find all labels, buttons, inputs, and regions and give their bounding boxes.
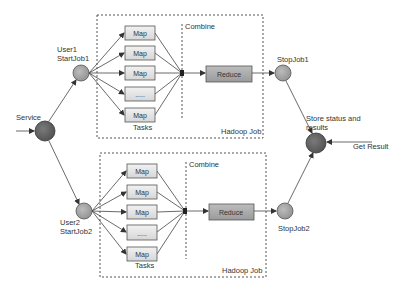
job-2-tasks-label: Tasks — [135, 261, 154, 270]
hadoop-job-2: Combine Hadoop Job Tasks Map Map Map ...… — [92, 153, 276, 277]
stopjob1-label: StopJob1 — [277, 55, 309, 64]
svg-text:.....: ..... — [135, 91, 145, 98]
job-1-map-tasks: Map Map Map ..... Map — [125, 26, 155, 122]
user1-label: User1 — [57, 45, 77, 54]
job-1-reduce-label: Reduce — [217, 71, 241, 78]
svg-text:Map: Map — [135, 168, 149, 176]
store-results-label: results — [306, 123, 328, 132]
job-1-combine-label: Combine — [185, 22, 215, 31]
svg-text:Map: Map — [133, 50, 147, 58]
svg-text:Map: Map — [133, 112, 147, 120]
stopjob2-node — [277, 203, 293, 219]
job-1-title: Hadoop Job — [221, 127, 261, 136]
store-status-label: Store status and — [306, 114, 361, 123]
svg-text:Map: Map — [135, 189, 149, 197]
startjob2-label: StartJob2 — [60, 227, 92, 236]
service-node — [35, 121, 55, 141]
job-2-combine-junction — [183, 208, 187, 214]
hadoop-job-diagram: Combine Hadoop Job Tasks Map Map Map ...… — [0, 0, 400, 291]
service-label: Service — [16, 113, 41, 122]
user1-startjob1-node — [73, 65, 89, 81]
job-2-map-tasks: Map Map Map ..... Map — [127, 164, 157, 261]
job-2-title: Hadoop Job — [222, 266, 262, 275]
svg-text:Map: Map — [135, 251, 149, 259]
stopjob2-label: StopJob2 — [278, 224, 310, 233]
stopjob1-node — [275, 65, 291, 81]
store-results-node — [306, 133, 326, 153]
svg-text:Map: Map — [135, 209, 149, 217]
job-1-tasks-label: Tasks — [133, 123, 152, 132]
startjob1-label: StartJob1 — [57, 54, 89, 63]
job-1-combine-junction — [180, 70, 184, 76]
hadoop-job-1: Combine Hadoop Job Tasks Map Map Map ...… — [89, 15, 274, 138]
svg-text:Map: Map — [133, 30, 147, 38]
svg-text:Map: Map — [133, 70, 147, 78]
svg-text:.....: ..... — [137, 230, 147, 237]
get-result-label: Get Result — [353, 142, 389, 151]
user2-label: User2 — [60, 218, 80, 227]
job-2-combine-label: Combine — [189, 160, 219, 169]
job-2-reduce-label: Reduce — [219, 209, 243, 216]
user2-startjob2-node — [76, 203, 92, 219]
